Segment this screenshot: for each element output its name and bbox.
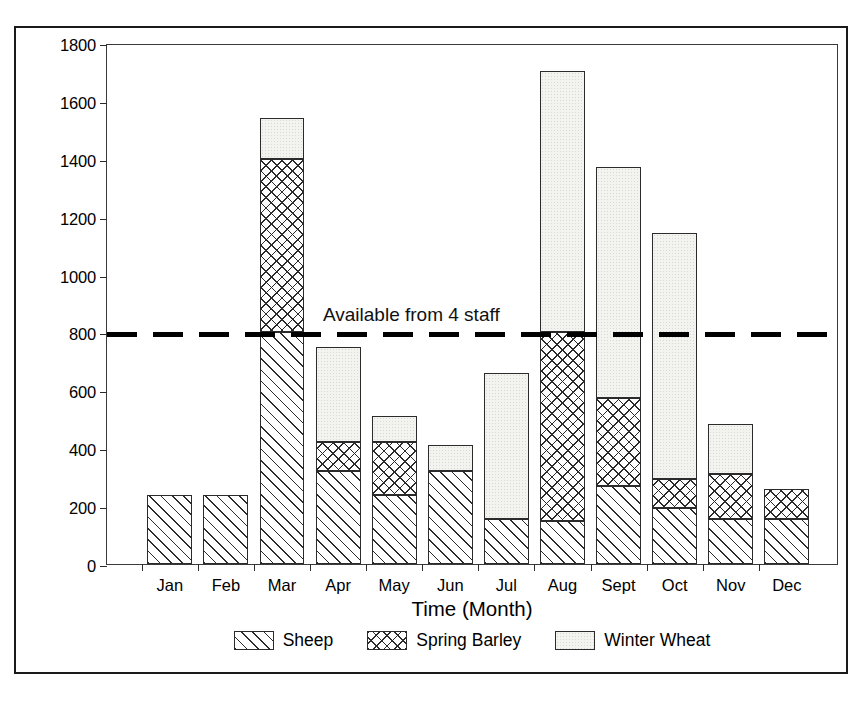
x-axis-title: Time (Month) [106, 597, 838, 621]
y-axis-tick-label: 800 [69, 325, 96, 344]
bar-segment-sheep [540, 521, 585, 564]
x-axis-tick [759, 564, 760, 571]
bar-segment-spring-barley [260, 159, 305, 333]
bar-segment-winter-wheat [540, 71, 585, 333]
y-axis-tick-label: 1200 [60, 209, 96, 228]
y-axis-tick-label: 1800 [60, 36, 96, 55]
bar-segment-sheep [316, 471, 361, 564]
x-axis-tick-label: Aug [548, 576, 577, 595]
y-axis-title-wrapper: Labour Requirement [Man Hours] [22, 44, 56, 565]
bar-segment-sheep [708, 519, 753, 564]
bar-segment-winter-wheat [708, 424, 753, 475]
chart-legend: SheepSpring BarleyWinter Wheat [106, 630, 838, 651]
bar-segment-sheep [260, 332, 305, 564]
plot-area: 020040060080010001200140016001800 JanFeb… [106, 44, 838, 565]
x-axis-tick [198, 564, 199, 571]
x-axis-tick-label: Oct [662, 576, 688, 595]
x-axis-tick-label: Jun [437, 576, 464, 595]
legend-swatch-light-stipple [555, 631, 595, 650]
bar-segment-winter-wheat [428, 445, 473, 471]
x-axis-tick [703, 564, 704, 571]
bar-segment-sheep [652, 508, 697, 564]
x-axis-tick [422, 564, 423, 571]
chart-figure: Labour Requirement [Man Hours] 020040060… [0, 0, 865, 702]
y-axis-tick-label: 400 [69, 441, 96, 460]
y-axis-tick [100, 334, 107, 335]
bar-jun [428, 445, 473, 564]
bar-segment-spring-barley [372, 442, 417, 494]
x-axis-tick-label: Dec [772, 576, 801, 595]
bar-nov [708, 424, 753, 564]
bar-segment-winter-wheat [260, 118, 305, 159]
bar-segment-sheep [596, 486, 641, 564]
y-axis-tick-label: 1600 [60, 93, 96, 112]
bar-apr [316, 347, 361, 564]
bar-dec [764, 489, 809, 564]
y-axis-tick [100, 508, 107, 509]
bar-segment-winter-wheat [484, 373, 529, 519]
y-axis-tick-label: 200 [69, 499, 96, 518]
x-axis-tick-label: Mar [268, 576, 296, 595]
bar-segment-spring-barley [596, 398, 641, 486]
y-axis-tick-label: 1400 [60, 151, 96, 170]
legend-swatch-cross-hatch [367, 631, 407, 650]
y-axis-tick [100, 566, 107, 567]
bar-segment-sheep [203, 495, 248, 564]
x-axis-tick-label: Jan [157, 576, 184, 595]
bar-segment-winter-wheat [652, 233, 697, 479]
y-axis-tick [100, 103, 107, 104]
bar-jul [484, 373, 529, 564]
bar-segment-sheep [147, 495, 192, 564]
bar-segment-sheep [484, 519, 529, 564]
bar-sept [596, 167, 641, 564]
bar-segment-winter-wheat [596, 167, 641, 397]
x-axis-tick-label: Nov [716, 576, 745, 595]
threshold-label: Available from 4 staff [323, 304, 500, 326]
bar-jan [147, 495, 192, 564]
y-axis-tick [100, 161, 107, 162]
bar-segment-spring-barley [708, 474, 753, 519]
y-axis-tick [100, 450, 107, 451]
x-axis-tick-label: Feb [212, 576, 240, 595]
x-axis-tick [366, 564, 367, 571]
legend-item-winter-wheat[interactable]: Winter Wheat [555, 630, 710, 651]
x-axis-tick [647, 564, 648, 571]
x-axis-tick [310, 564, 311, 571]
legend-item-sheep[interactable]: Sheep [234, 630, 334, 651]
bar-feb [203, 495, 248, 564]
legend-label: Sheep [283, 630, 334, 651]
bar-segment-sheep [372, 495, 417, 564]
y-axis-tick-label: 0 [87, 557, 96, 576]
x-axis-tick-label: Apr [325, 576, 351, 595]
threshold-line [107, 332, 837, 337]
x-axis-tick [142, 564, 143, 571]
y-axis-tick [100, 45, 107, 46]
bar-segment-spring-barley [652, 479, 697, 508]
legend-item-spring-barley[interactable]: Spring Barley [367, 630, 521, 651]
x-axis-tick-label: May [379, 576, 410, 595]
x-axis-tick [254, 564, 255, 571]
y-axis-tick-label: 1000 [60, 267, 96, 286]
x-axis-tick [591, 564, 592, 571]
legend-swatch-diagonal-hatch [234, 631, 274, 650]
bar-segment-spring-barley [764, 489, 809, 519]
bar-aug [540, 71, 585, 565]
bar-segment-winter-wheat [372, 416, 417, 442]
bar-segment-spring-barley [316, 442, 361, 471]
x-axis-tick-label: Jul [496, 576, 517, 595]
y-axis-tick [100, 219, 107, 220]
x-axis-tick [478, 564, 479, 571]
y-axis-tick-label: 600 [69, 383, 96, 402]
bar-oct [652, 233, 697, 564]
bar-segment-sheep [764, 519, 809, 564]
bar-segment-winter-wheat [316, 347, 361, 443]
bar-mar [260, 118, 305, 564]
x-axis-tick [534, 564, 535, 571]
legend-label: Winter Wheat [604, 630, 710, 651]
legend-label: Spring Barley [416, 630, 521, 651]
bar-segment-spring-barley [540, 332, 585, 520]
bar-segment-sheep [428, 471, 473, 564]
y-axis-tick [100, 277, 107, 278]
x-axis-tick-label: Sept [602, 576, 636, 595]
y-axis-tick [100, 392, 107, 393]
